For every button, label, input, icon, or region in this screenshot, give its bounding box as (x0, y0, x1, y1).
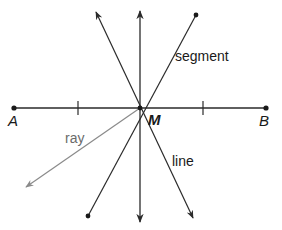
point-b (263, 105, 268, 110)
label-b: B (259, 112, 269, 129)
label-a: A (7, 112, 18, 129)
line-with-arrows (96, 12, 193, 218)
geometry-diagram: segment M A B ray line (0, 0, 282, 230)
label-segment: segment (175, 48, 229, 64)
segment-endpoint-top (194, 13, 199, 18)
label-ray: ray (65, 130, 84, 146)
ray (26, 108, 140, 187)
label-m: M (148, 111, 161, 128)
diagonal-segment (86, 13, 199, 219)
segment-endpoint-bottom (86, 214, 91, 219)
point-a (11, 105, 16, 110)
label-line: line (172, 153, 194, 169)
point-m (138, 106, 143, 111)
